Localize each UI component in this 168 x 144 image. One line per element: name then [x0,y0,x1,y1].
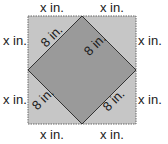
label-top-left: x in. [40,0,64,15]
label-left-bottom: x in. [3,92,27,107]
label-right-bottom: x in. [138,92,162,107]
label-top-right: x in. [100,0,124,15]
label-right-top: x in. [138,33,162,48]
label-bottom-left: x in. [40,127,64,142]
label-left-top: x in. [3,33,27,48]
label-bottom-right: x in. [100,127,124,142]
square-diagram: x in. x in. x in. x in. x in. x in. x in… [0,0,168,144]
